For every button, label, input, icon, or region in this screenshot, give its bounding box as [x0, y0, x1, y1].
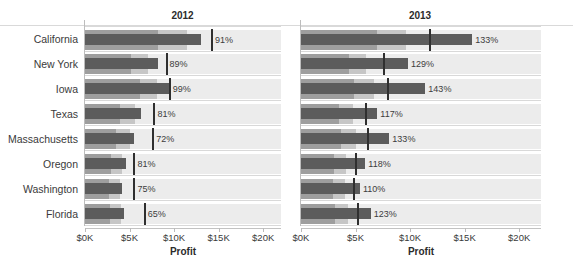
reference-line — [133, 178, 135, 200]
x-axis-tick-label: $15K — [208, 232, 230, 243]
measure-bar[interactable] — [85, 34, 201, 45]
chart-row: 123% — [301, 201, 541, 226]
measure-bar[interactable] — [301, 183, 360, 194]
reference-line — [365, 103, 367, 125]
plot-area-2012: 91%89%99%81%72%81%75%65% — [85, 26, 281, 226]
chart-row: 65% — [85, 201, 281, 226]
x-axis-tick-label: $5K — [347, 232, 364, 243]
measure-bar[interactable] — [301, 83, 425, 94]
chart-row: 99% — [85, 76, 281, 101]
chart-row: 143% — [301, 76, 541, 101]
chart-row: 89% — [85, 51, 281, 76]
chart-row: 133% — [301, 26, 541, 52]
category-label: Massachusetts — [0, 133, 78, 145]
percent-label: 81% — [137, 159, 155, 169]
measure-bar[interactable] — [85, 158, 126, 169]
x-axis-tick-label: $10K — [163, 232, 185, 243]
percent-label: 89% — [170, 59, 188, 69]
reference-line — [211, 29, 213, 51]
x-axis-line — [85, 228, 281, 229]
x-axis-tick-label: $0K — [77, 232, 94, 243]
bullet-chart: 2012 2013 CaliforniaNew YorkIowaTexasMas… — [0, 0, 573, 273]
reference-line — [166, 53, 168, 75]
category-label: California — [0, 33, 78, 45]
reference-line — [169, 78, 171, 100]
x-axis-title-2013: Profit — [301, 246, 541, 257]
percent-label: 123% — [374, 209, 397, 219]
measure-bar[interactable] — [85, 83, 169, 94]
percent-label: 143% — [428, 84, 451, 94]
reference-line — [153, 103, 155, 125]
x-axis-2013: Profit $0K$5K$10K$15K$20K — [301, 228, 541, 258]
x-axis-tick-label: $5K — [121, 232, 138, 243]
reference-line — [367, 128, 369, 150]
chart-row: 91% — [85, 26, 281, 52]
reference-line — [353, 178, 355, 200]
category-label: Iowa — [0, 83, 78, 95]
reference-line — [357, 203, 359, 225]
measure-bar[interactable] — [85, 208, 124, 219]
reference-line — [355, 153, 357, 175]
measure-bar[interactable] — [301, 58, 408, 69]
x-axis-tick-label: $20K — [252, 232, 274, 243]
measure-bar[interactable] — [301, 208, 371, 219]
percent-label: 110% — [363, 184, 385, 194]
percent-label: 99% — [173, 84, 191, 94]
percent-label: 117% — [380, 109, 402, 119]
x-axis-tick-label: $20K — [508, 232, 530, 243]
reference-line — [429, 29, 431, 51]
measure-bar[interactable] — [85, 133, 134, 144]
category-label: New York — [0, 58, 78, 70]
percent-label: 118% — [368, 159, 390, 169]
chart-row: 72% — [85, 126, 281, 151]
percent-label: 91% — [215, 35, 233, 45]
category-label: Oregon — [0, 158, 78, 170]
category-label: Texas — [0, 108, 78, 120]
x-axis-tick-label: $15K — [454, 232, 476, 243]
x-axis-tick-label: $0K — [293, 232, 310, 243]
measure-bar[interactable] — [301, 133, 389, 144]
chart-row: 133% — [301, 126, 541, 151]
reference-line — [144, 203, 146, 225]
chart-row: 81% — [85, 101, 281, 126]
percent-label: 81% — [157, 109, 175, 119]
panel-title-2012: 2012 — [85, 10, 280, 21]
percent-label: 133% — [392, 134, 415, 144]
reference-line — [133, 153, 135, 175]
percent-label: 129% — [411, 59, 434, 69]
measure-bar[interactable] — [301, 34, 472, 45]
measure-bar[interactable] — [85, 108, 141, 119]
chart-row: 129% — [301, 51, 541, 76]
x-axis-tick-label: $10K — [399, 232, 421, 243]
reference-line — [387, 78, 389, 100]
chart-row: 81% — [85, 151, 281, 176]
x-axis-line — [301, 228, 541, 229]
x-axis-title-2012: Profit — [85, 246, 281, 257]
chart-row: 117% — [301, 101, 541, 126]
chart-row: 110% — [301, 176, 541, 201]
percent-label: 65% — [148, 209, 166, 219]
measure-bar[interactable] — [85, 183, 122, 194]
chart-row: 75% — [85, 176, 281, 201]
panel-title-2013: 2013 — [300, 10, 540, 21]
reference-line — [152, 128, 154, 150]
measure-bar[interactable] — [85, 58, 158, 69]
percent-label: 72% — [156, 134, 174, 144]
percent-label: 75% — [137, 184, 155, 194]
category-label: Florida — [0, 208, 78, 220]
percent-label: 133% — [475, 35, 498, 45]
chart-row: 118% — [301, 151, 541, 176]
reference-line — [383, 53, 385, 75]
x-axis-2012: Profit $0K$5K$10K$15K$20K — [85, 228, 281, 258]
plot-area-2013: 133%129%143%117%133%118%110%123% — [301, 26, 541, 226]
category-label: Washington — [0, 183, 78, 195]
